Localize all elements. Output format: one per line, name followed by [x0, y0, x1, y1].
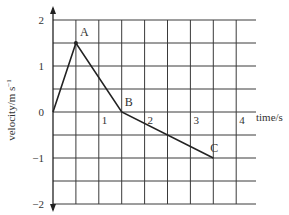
point-a-marker: [74, 41, 78, 45]
x-tick-label: 1: [102, 114, 108, 126]
point-label-c: C: [210, 141, 218, 155]
x-tick-label: 2: [148, 114, 154, 126]
y-tick-label: 1: [39, 60, 45, 72]
y-axis-label: velocity/m s−1: [3, 62, 19, 158]
velocity-time-graph: 1234210−1−2 ABC time/s: [0, 0, 289, 215]
data-series: [53, 41, 213, 158]
y-axis-label-text: velocity/m s: [5, 87, 17, 141]
y-tick-label: −2: [32, 198, 44, 210]
y-tick-label: 0: [39, 106, 45, 118]
x-axis-label: time/s: [256, 111, 283, 123]
grid-lines: [53, 20, 256, 204]
arrow-down-icon: [50, 204, 56, 212]
point-label-b: B: [125, 95, 133, 109]
x-tick-label: 4: [239, 114, 245, 126]
y-tick-label: 2: [39, 14, 45, 26]
point-label-a: A: [80, 25, 89, 39]
velocity-line: [53, 43, 213, 158]
x-tick-label: 3: [193, 114, 199, 126]
arrow-up-icon: [50, 6, 56, 14]
y-axis-label-exponent: −1: [5, 79, 13, 86]
y-tick-label: −1: [32, 152, 44, 164]
